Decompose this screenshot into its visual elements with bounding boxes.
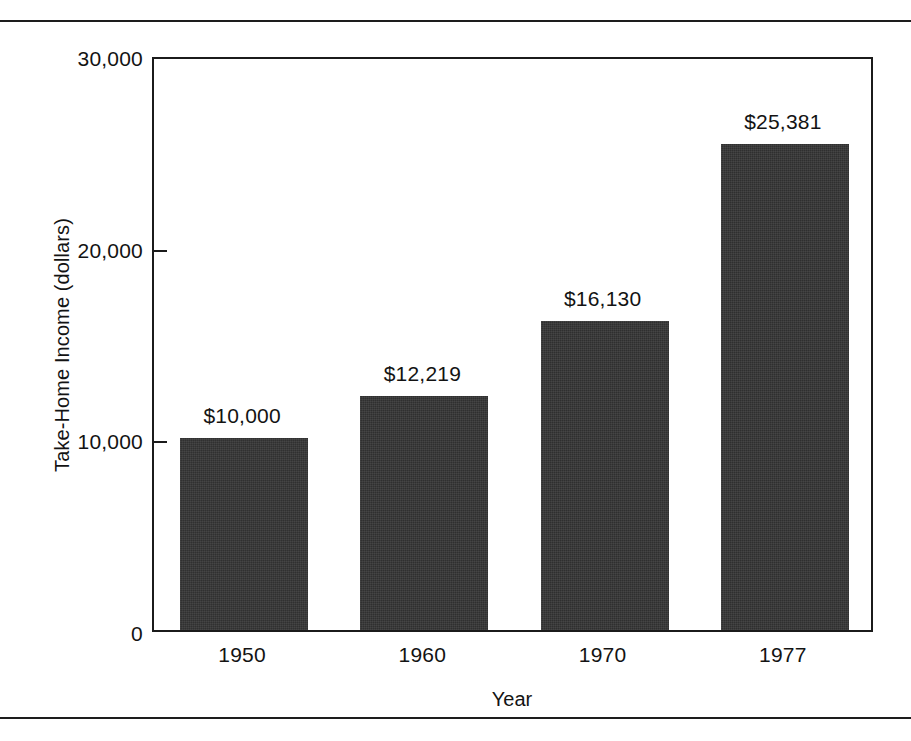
y-tick-label: 0 xyxy=(131,622,143,646)
bar[interactable] xyxy=(180,438,308,630)
bar-series xyxy=(154,59,871,630)
figure-container: Take-Home Income (dollars) Year 010,0002… xyxy=(0,0,911,741)
bar[interactable] xyxy=(360,396,488,630)
x-tick-label: 1960 xyxy=(399,643,447,667)
y-tick-label: 20,000 xyxy=(78,239,143,263)
y-axis-title: Take-Home Income (dollars) xyxy=(51,218,74,472)
x-axis-title: Year xyxy=(492,688,532,711)
bar-value-label: $25,381 xyxy=(744,110,821,134)
bar[interactable] xyxy=(721,144,849,630)
bar-value-label: $12,219 xyxy=(384,362,461,386)
x-tick-label: 1970 xyxy=(579,643,627,667)
plot-area: 010,00020,00030,000 xyxy=(152,57,873,632)
x-tick-label: 1977 xyxy=(759,643,807,667)
page-rule-top xyxy=(0,20,911,22)
y-tick-label: 30,000 xyxy=(78,47,143,71)
page-rule-bottom xyxy=(0,717,911,719)
bar-value-label: $16,130 xyxy=(564,287,641,311)
bar-value-label: $10,000 xyxy=(203,404,280,428)
x-tick-label: 1950 xyxy=(218,643,266,667)
y-tick-label: 10,000 xyxy=(78,430,143,454)
bar[interactable] xyxy=(541,321,669,630)
